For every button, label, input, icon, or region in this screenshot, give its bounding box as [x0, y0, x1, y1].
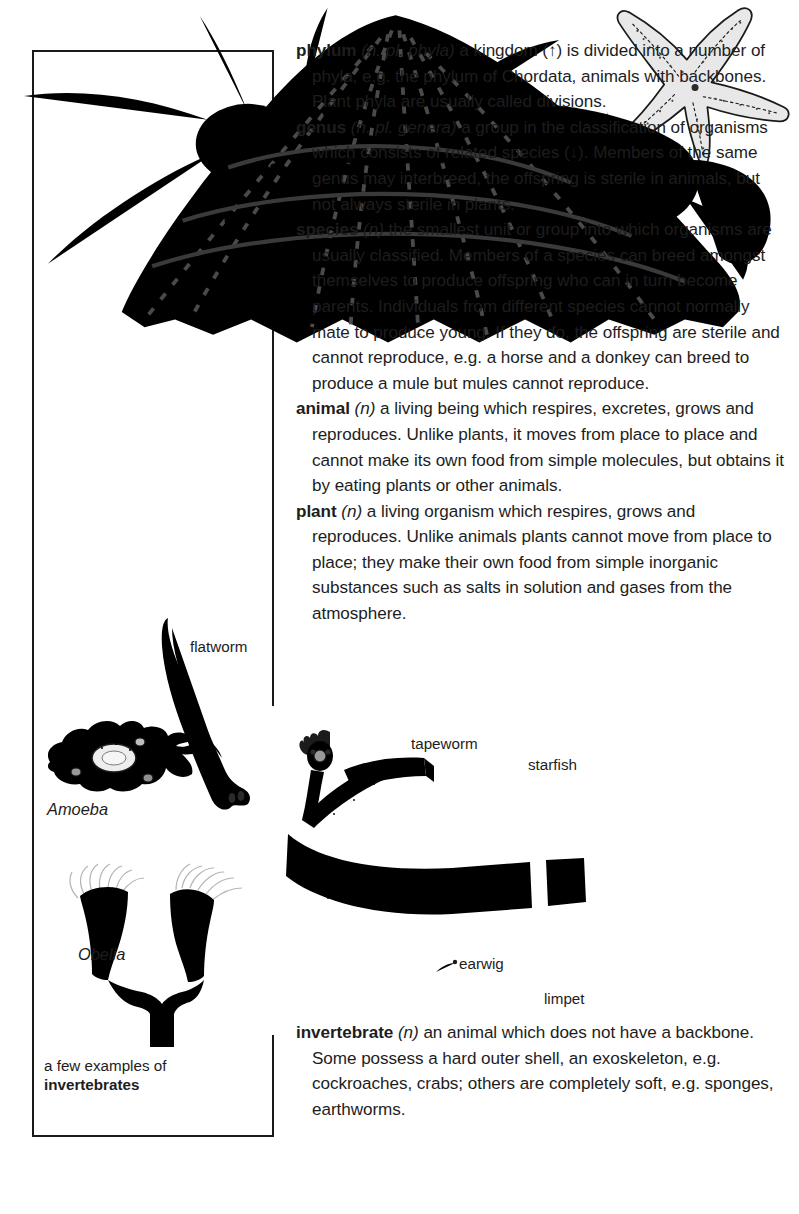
label-obelia: Obelia — [78, 945, 125, 963]
dictionary-entry: species (n) the smallest unit or group i… — [296, 217, 788, 396]
dictionary-page: flatworm Amoeba Obelia tapeworm starfish… — [0, 0, 799, 1214]
dictionary-entry: genus (n. pl. genera) a group in the cla… — [296, 115, 788, 217]
dictionary-entry: invertebrate (n) an animal which does no… — [296, 1020, 788, 1122]
label-amoeba: Amoeba — [47, 800, 108, 818]
earwig-leader — [436, 963, 455, 972]
label-tapeworm: tapeworm — [411, 735, 478, 753]
figure-caption: a few examples of invertebrates — [44, 1056, 166, 1094]
entry-grammar: (n. pl. genera) — [351, 118, 457, 137]
entry-headword: genus — [296, 118, 346, 137]
entry-definition: the smallest unit or group into which or… — [312, 220, 780, 393]
entry-grammar: (n) — [363, 220, 384, 239]
label-flatworm: flatworm — [190, 638, 247, 656]
figure-box-bottom-border — [32, 1135, 274, 1137]
entry-headword: plant — [296, 502, 337, 521]
dictionary-entry: phylum (n. pl. phyla) a kingdom (↑) is d… — [296, 38, 788, 115]
figure-caption-line1: a few examples of — [44, 1056, 166, 1075]
entry-grammar: (n. pl. phyla) — [361, 41, 454, 60]
label-earwig: earwig — [459, 955, 504, 973]
entry-headword: phylum — [296, 41, 356, 60]
entry-headword: species — [296, 220, 358, 239]
entry-headword: animal — [296, 399, 350, 418]
entry-definition: a living being which respires, excretes,… — [312, 399, 784, 495]
figure-box-right-border-lower — [272, 1035, 274, 1137]
entry-definition: a living organism which respires, grows … — [312, 502, 772, 623]
label-starfish: starfish — [528, 756, 577, 774]
entry-grammar: (n) — [398, 1023, 419, 1042]
entry-headword: invertebrate — [296, 1023, 393, 1042]
dictionary-entry: animal (n) a living being which respires… — [296, 396, 788, 498]
figure-caption-line2: invertebrates — [44, 1075, 166, 1094]
entry-grammar: (n) — [355, 399, 376, 418]
dictionary-entry: plant (n) a living organism which respir… — [296, 499, 788, 627]
definitions-column-top: phylum (n. pl. phyla) a kingdom (↑) is d… — [296, 38, 788, 627]
entry-grammar: (n) — [341, 502, 362, 521]
definitions-column-bottom: invertebrate (n) an animal which does no… — [296, 1020, 788, 1122]
label-limpet: limpet — [544, 990, 585, 1008]
